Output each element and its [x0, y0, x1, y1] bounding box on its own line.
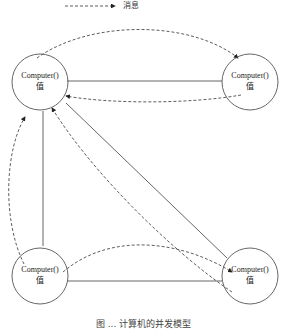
node-function: Computer() [220, 70, 280, 81]
msg-br-to-tl [52, 108, 232, 292]
msg-bl-to-br [63, 245, 232, 272]
node-value: 值 [10, 275, 70, 286]
node-label-top-left: Computer() 值 [10, 70, 70, 92]
figure-caption: 图 ... 计算机的并发模型 [0, 317, 287, 330]
node-function: Computer() [10, 70, 70, 81]
msg-tr-to-tl [66, 95, 241, 102]
node-label-top-right: Computer() 值 [220, 70, 280, 92]
node-value: 值 [220, 275, 280, 286]
solid-links [43, 81, 227, 281]
msg-tl-to-tr [37, 30, 238, 59]
node-value: 值 [10, 81, 70, 92]
legend-label: 消息 [123, 0, 139, 10]
msg-bl-to-tl [9, 117, 25, 264]
link-tl-br [66, 103, 227, 258]
node-function: Computer() [10, 264, 70, 275]
node-label-bottom-right: Computer() 值 [220, 264, 280, 286]
node-value: 值 [220, 81, 280, 92]
node-function: Computer() [220, 264, 280, 275]
message-arrows [9, 30, 241, 293]
node-label-bottom-left: Computer() 值 [10, 264, 70, 286]
